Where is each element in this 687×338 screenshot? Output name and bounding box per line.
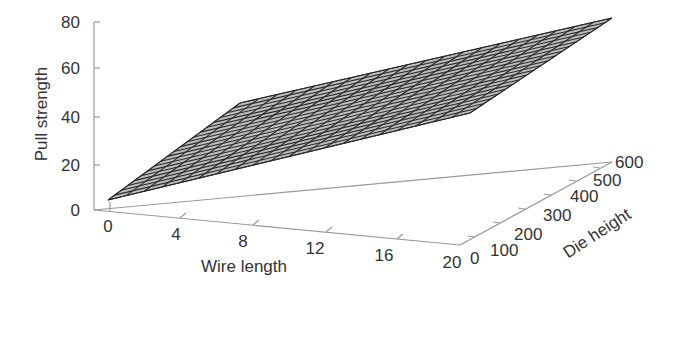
z-tick-label: 20 <box>61 156 80 175</box>
z-tick-label: 80 <box>61 13 80 32</box>
y-tick <box>593 167 600 168</box>
x-tick <box>253 220 259 225</box>
x-tick <box>326 227 332 232</box>
z-tick-label: 40 <box>61 108 80 127</box>
y-tick-label: 300 <box>543 206 571 225</box>
y-tick <box>518 208 525 209</box>
x-tick-label: 0 <box>103 217 112 236</box>
y-tick <box>569 180 576 181</box>
surface-plot: 80 60 40 20 0 0 4 8 12 16 20 0 100 200 3… <box>0 0 687 338</box>
surface <box>108 18 612 200</box>
x-tick-label: 8 <box>238 232 247 251</box>
y-tick-label: 600 <box>615 153 643 172</box>
z-tick-label: 60 <box>61 59 80 78</box>
x-axis-line <box>94 210 460 245</box>
x-axis-title: Wire length <box>201 257 287 276</box>
x-tick-label: 12 <box>306 239 325 258</box>
z-axis-title: Pull strength <box>32 67 51 162</box>
y-tick-label: 200 <box>514 225 542 244</box>
y-tick <box>544 194 551 195</box>
x-tick-label: 20 <box>443 253 462 272</box>
y-tick <box>468 236 475 237</box>
y-tick <box>493 222 500 223</box>
y-tick-label: 0 <box>470 249 479 268</box>
x-tick-label: 4 <box>171 225 180 244</box>
z-tick-label: 0 <box>71 201 80 220</box>
y-tick-label: 500 <box>593 171 621 190</box>
x-tick <box>180 213 186 218</box>
x-tick <box>397 234 403 239</box>
x-tick-label: 16 <box>375 246 394 265</box>
z-tick-labels: 80 60 40 20 0 <box>61 13 80 220</box>
